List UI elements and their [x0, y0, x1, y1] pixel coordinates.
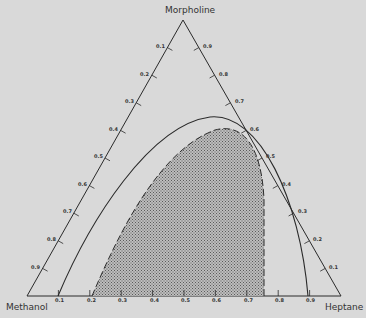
svg-text:0.1: 0.1 [156, 43, 165, 49]
svg-text:0.4: 0.4 [282, 181, 291, 187]
svg-text:0.2: 0.2 [313, 236, 322, 242]
shaded-region [92, 129, 264, 296]
ternary-diagram: Morpholine Methanol Heptane [0, 0, 366, 318]
bottom-edge-tick-labels: 0.1 0.2 0.3 0.4 0.5 0.6 0.7 0.8 0.9 [55, 297, 315, 303]
svg-text:0.6: 0.6 [212, 297, 221, 303]
svg-text:0.8: 0.8 [275, 297, 284, 303]
svg-text:0.3: 0.3 [125, 98, 134, 104]
svg-text:0.9: 0.9 [31, 264, 40, 270]
svg-text:0.3: 0.3 [118, 297, 127, 303]
svg-text:0.5: 0.5 [266, 153, 275, 159]
svg-text:0.7: 0.7 [235, 98, 244, 104]
svg-text:0.9: 0.9 [306, 297, 315, 303]
svg-text:0.3: 0.3 [298, 208, 307, 214]
svg-text:0.6: 0.6 [78, 181, 87, 187]
svg-text:0.5: 0.5 [94, 153, 103, 159]
svg-text:0.7: 0.7 [244, 297, 253, 303]
svg-text:0.7: 0.7 [63, 208, 72, 214]
svg-text:0.1: 0.1 [55, 297, 64, 303]
svg-text:0.2: 0.2 [140, 71, 149, 77]
svg-text:0.1: 0.1 [329, 264, 338, 270]
svg-text:0.8: 0.8 [47, 236, 56, 242]
svg-text:0.8: 0.8 [219, 71, 228, 77]
svg-text:0.4: 0.4 [109, 126, 118, 132]
svg-text:0.2: 0.2 [87, 297, 96, 303]
svg-text:0.9: 0.9 [203, 43, 212, 49]
diagram-canvas: 0.1 0.2 0.3 0.4 0.5 0.6 0.7 0.8 0.9 0.9 … [0, 0, 366, 318]
svg-text:0.6: 0.6 [250, 126, 259, 132]
svg-text:0.4: 0.4 [150, 297, 159, 303]
svg-text:0.5: 0.5 [181, 297, 190, 303]
